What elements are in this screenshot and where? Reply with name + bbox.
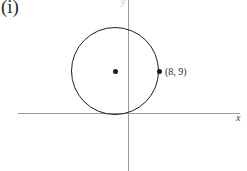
point-coordinate-label: (8, 9) (165, 66, 187, 77)
part-label: (i) (1, 0, 19, 17)
x-axis-line (18, 113, 240, 114)
circle-center-point (113, 69, 118, 74)
y-axis-label: y (121, 0, 125, 7)
x-axis-label: x (236, 112, 240, 123)
figure-canvas: (i) x y (8, 9) (0, 0, 247, 171)
point-on-circle (157, 69, 162, 74)
